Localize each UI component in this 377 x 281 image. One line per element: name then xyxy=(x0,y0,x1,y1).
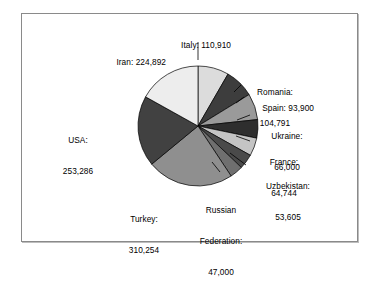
slice-label-uzbekistan-line2: 53,605 xyxy=(250,212,326,222)
slice-label-russia-line3: 47,000 xyxy=(182,267,260,277)
slice-label-russia-line1: Russian xyxy=(182,205,260,215)
slice-label-uzbekistan-line1: Uzbekistan: xyxy=(250,181,326,191)
slice-label-uzbekistan: Uzbekistan: 53,605 xyxy=(250,160,326,243)
pie-slices-group xyxy=(138,66,258,186)
slice-label-usa-line1: USA: xyxy=(46,135,110,145)
chart-frame: Iran: 224,892 Italy: 110,910 Romania: 10… xyxy=(21,13,358,242)
slice-label-usa-line2: 253,286 xyxy=(46,166,110,176)
pie-chart-plot-area: Iran: 224,892 Italy: 110,910 Romania: 10… xyxy=(22,14,357,241)
slice-label-turkey-line2: 310,254 xyxy=(110,245,178,255)
slice-label-italy: Italy: 110,910 xyxy=(147,30,251,61)
slice-label-russian-federation: Russian Federation: 47,000 xyxy=(182,184,260,281)
slice-label-russia-line2: Federation: xyxy=(182,236,260,246)
slice-label-turkey-line1: Turkey: xyxy=(110,214,178,224)
slice-label-turkey: Turkey: 310,254 xyxy=(110,193,178,276)
slice-label-italy-text: Italy: 110,910 xyxy=(181,40,231,50)
slice-label-usa: USA: 253,286 xyxy=(46,114,110,197)
